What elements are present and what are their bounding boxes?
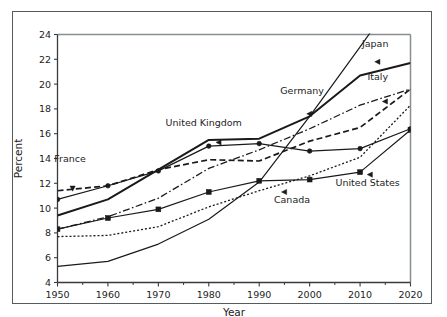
x-tick-label: 1980 [197,289,221,300]
series-annotation-germany: Germany [280,85,324,96]
series-germany [58,63,411,216]
series-line [58,0,411,266]
data-point-marker [408,126,413,131]
data-point-marker [382,99,387,104]
series-annotation-canada: Canada [274,194,310,205]
data-point-marker [55,227,60,232]
chart-figure: 4681012141618202224195019601970198019902… [0,0,447,317]
y-tick-label: 20 [39,79,51,90]
data-point-marker [206,144,211,149]
data-point-marker [55,197,60,202]
series-italy [58,89,411,229]
y-tick-label: 8 [45,227,51,238]
y-tick-label: 22 [39,54,51,65]
data-point-marker [358,146,363,151]
data-point-marker [375,59,380,64]
series-annotation-italy: Italy [367,71,388,82]
y-tick-label: 14 [39,153,51,164]
x-tick-label: 2000 [298,289,322,300]
data-point-marker [206,190,211,195]
data-point-marker [358,170,363,175]
y-axis-title: Percent [12,139,24,179]
x-tick-label: 1960 [96,289,120,300]
data-point-marker [257,178,262,183]
series-japan [58,0,411,266]
y-tick-label: 24 [39,29,51,40]
y-tick-label: 12 [39,178,51,189]
data-point-marker [257,141,262,146]
data-point-marker [307,149,312,154]
y-tick-label: 6 [45,252,51,263]
series-annotation-united-states: United States [335,177,399,188]
x-tick-label: 2020 [398,289,422,300]
data-point-marker [106,216,111,221]
x-axis-ticks: 19501960197019801990200020102020 [45,283,422,301]
x-tick-label: 2010 [348,289,372,300]
series-annotation-united-kingdom: United Kingdom [166,117,242,128]
y-tick-label: 16 [39,128,51,139]
series-annotation-japan: Japan [361,38,389,49]
series-group [55,0,413,266]
x-tick-label: 1990 [247,289,271,300]
y-tick-label: 4 [45,277,51,288]
x-axis-title: Year [222,306,246,317]
data-point-marker [307,177,312,182]
series-united-kingdom [55,126,413,201]
line-chart: 4681012141618202224195019601970198019902… [0,0,447,317]
x-tick-label: 1970 [146,289,170,300]
y-tick-label: 18 [39,103,51,114]
series-line [58,89,411,229]
y-tick-label: 10 [39,203,51,214]
data-point-marker [106,183,111,188]
data-point-marker [156,207,161,212]
x-tick-label: 1950 [45,289,69,300]
series-line [58,63,411,216]
series-annotation-france: France [54,153,86,164]
